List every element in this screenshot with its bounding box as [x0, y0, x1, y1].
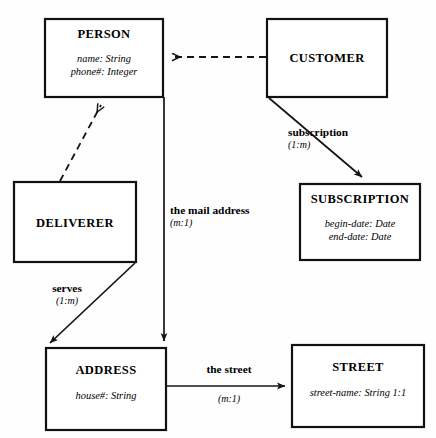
- serves-label: serves: [52, 282, 82, 294]
- edge-subscription[interactable]: subscription (1:m): [269, 98, 362, 177]
- address-title: ADDRESS: [75, 363, 136, 377]
- person-title: PERSON: [77, 27, 130, 41]
- subscription-label: subscription: [288, 126, 349, 138]
- entity-person[interactable]: PERSON name: String phone#: Integer: [45, 19, 163, 97]
- mail-address-label: the mail address: [170, 204, 250, 216]
- er-diagram: subscription (1:m) the mail address (m:1…: [0, 0, 436, 438]
- street-attribute-name: street-name: String 1:1: [310, 387, 407, 398]
- subscription-cardinality: (1:m): [288, 139, 311, 151]
- mail-address-cardinality: (m:1): [170, 217, 193, 229]
- street-title: STREET: [332, 360, 384, 374]
- subscription-attribute-end-date: end-date: Date: [329, 231, 392, 242]
- serves-cardinality: (1:m): [56, 295, 79, 307]
- address-box: [46, 348, 166, 430]
- subscription-title: SUBSCRIPTION: [311, 192, 410, 206]
- person-attribute-phone: phone#: Integer: [70, 66, 139, 77]
- entity-deliverer[interactable]: DELIVERER: [14, 182, 136, 262]
- deliverer-title: DELIVERER: [36, 216, 114, 230]
- subscription-attribute-begin-date: begin-date: Date: [325, 218, 396, 229]
- customer-title: CUSTOMER: [289, 51, 365, 65]
- diagram-canvas: subscription (1:m) the mail address (m:1…: [0, 0, 436, 438]
- edge-mail-address[interactable]: the mail address (m:1): [164, 97, 250, 341]
- edge-serves[interactable]: serves (1:m): [50, 263, 135, 343]
- edge-street[interactable]: the street (m:1): [166, 363, 285, 405]
- address-attribute-house: house#: String: [76, 390, 137, 401]
- street-cardinality: (m:1): [218, 393, 241, 405]
- street-label: the street: [206, 363, 251, 375]
- deliverer-is-person-line: [60, 105, 101, 181]
- entity-subscription[interactable]: SUBSCRIPTION begin-date: Date end-date: …: [300, 184, 420, 260]
- entity-street[interactable]: STREET street-name: String 1:1: [292, 345, 424, 427]
- edge-deliverer-is-person[interactable]: [60, 105, 101, 181]
- entity-address[interactable]: ADDRESS house#: String: [46, 348, 166, 430]
- street-box: [292, 345, 424, 427]
- entity-customer[interactable]: CUSTOMER: [267, 19, 387, 97]
- person-attribute-name: name: String: [77, 53, 131, 64]
